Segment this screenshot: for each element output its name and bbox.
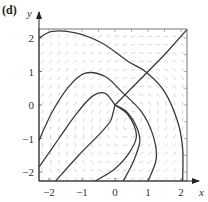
y-tick-label: −1	[22, 133, 34, 145]
x-axis-label: x	[198, 186, 204, 198]
x-tick-label: 0	[112, 186, 118, 198]
x-tick-label: −2	[43, 186, 55, 198]
inner-loop	[56, 105, 115, 181]
outer-trajectory	[39, 31, 183, 181]
y-tick-label: 0	[29, 99, 35, 111]
x-tick-label: −1	[76, 186, 88, 198]
diagonal-separatrix	[115, 29, 188, 105]
middle-trajectory	[39, 73, 156, 181]
plot-frame	[39, 29, 187, 181]
trajectories	[39, 29, 188, 181]
ticks: −2−1012−2−1012	[22, 29, 187, 198]
y-tick-label: −2	[22, 166, 34, 178]
y-axis-label: y	[26, 7, 32, 19]
x-tick-label: 1	[145, 186, 151, 198]
y-tick-label: 1	[29, 66, 35, 78]
inner-right-lobe	[115, 105, 140, 181]
x-tick-label: 2	[178, 186, 184, 198]
phase-portrait-plot: −2−1012−2−1012 x y	[0, 0, 208, 202]
y-tick-label: 2	[29, 32, 35, 44]
